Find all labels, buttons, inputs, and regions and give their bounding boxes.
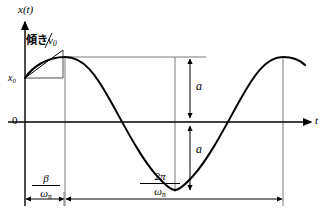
phase-numerator: β: [32, 172, 60, 186]
period-label: 2π ωn: [140, 170, 180, 199]
period-numerator: 2π: [140, 170, 180, 184]
initial-displacement-label: x0: [8, 73, 16, 85]
vibration-response-figure: x(t) t 0 x0 傾きv0 a a β ωn 2π ωn: [0, 0, 329, 223]
amplitude-label-lower: a: [196, 143, 202, 155]
phase-offset-label: β ωn: [32, 172, 60, 201]
initial-slope-label: 傾きv0: [26, 35, 57, 48]
origin-label: 0: [12, 115, 18, 126]
period-denominator: ωn: [140, 184, 180, 199]
y-axis-label: x(t): [18, 4, 33, 15]
tangent-line: [25, 50, 63, 78]
amplitude-label-upper: a: [196, 80, 202, 92]
x-axis-label: t: [315, 115, 318, 126]
phase-denominator: ωn: [32, 186, 60, 201]
